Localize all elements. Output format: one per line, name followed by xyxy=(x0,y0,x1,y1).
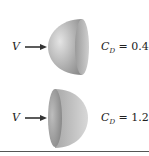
convex-hemisphere-icon xyxy=(48,19,89,75)
diagram-canvas xyxy=(0,0,149,156)
velocity-label-top: V xyxy=(12,40,20,53)
drag-coefficient-bottom: CD = 1.2 xyxy=(101,111,149,126)
cd-value: = 0.4 xyxy=(119,40,149,53)
cd-subscript: D xyxy=(109,47,115,55)
flow-arrow-top-icon xyxy=(25,44,47,50)
cd-value: = 1.2 xyxy=(119,111,149,124)
bottom-rule-divider xyxy=(0,151,149,152)
velocity-label-bottom: V xyxy=(12,111,20,124)
cd-subscript: D xyxy=(109,118,115,126)
concave-hemisphere-icon xyxy=(48,89,88,148)
flow-arrow-bottom-icon xyxy=(25,115,47,121)
drag-coefficient-top: CD = 0.4 xyxy=(101,40,149,55)
